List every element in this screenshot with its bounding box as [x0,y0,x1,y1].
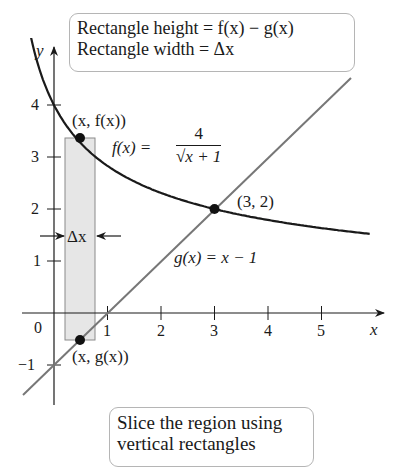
x-tick-3: 3 [210,323,218,339]
x-axis-label: x [370,321,378,338]
y-tick-4: 4 [31,97,39,113]
point-g-label: (x, g(x)) [72,348,129,365]
rectangle-height-text: Rectangle height = f(x) − g(x) [77,18,347,39]
rectangle-formula-box: Rectangle height = f(x) − g(x) Rectangle… [69,13,355,72]
caption-box: Slice the region using vertical rectangl… [109,407,314,467]
x-tick-5: 5 [317,323,325,339]
y-tick-2: 2 [31,201,39,217]
caption-line-2: vertical rectangles [117,433,306,454]
x-tick-4: 4 [264,323,272,339]
point-g [75,335,85,345]
f-numerator: 4 [176,124,221,146]
intersection-label: (3, 2) [237,193,274,210]
rectangle-width-text: Rectangle width = Δx [77,39,347,60]
y-tick-1: 1 [33,253,41,269]
f-denominator: √x + 1 [176,146,221,167]
g-equation: g(x) = x − 1 [174,249,257,266]
delta-x-label: Δx [67,228,86,245]
point-f [75,133,85,143]
x-tick-1: 1 [103,323,111,339]
y-axis-label: y [36,42,44,59]
x-tick-2: 2 [157,323,165,339]
f-equation-lhs: f(x) = [112,139,151,156]
point-intersection [210,204,220,214]
y-tick-3: 3 [31,149,39,165]
caption-line-1: Slice the region using [117,412,306,433]
f-equation-fraction: 4 √x + 1 [176,124,221,167]
y-tick-minus-1: −1 [18,357,35,373]
point-f-label: (x, f(x)) [72,112,126,129]
origin-label: 0 [34,320,42,336]
